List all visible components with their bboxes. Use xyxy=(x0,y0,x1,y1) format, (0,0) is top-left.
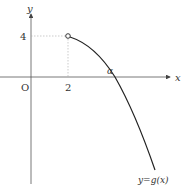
root-alpha-label: α xyxy=(107,66,113,76)
x-tick-label: 2 xyxy=(65,82,71,93)
graph: y x O 2 4 α y=g(x) xyxy=(0,0,187,186)
open-point xyxy=(66,34,71,39)
curve-g xyxy=(70,37,155,170)
x-axis-label: x xyxy=(175,72,181,83)
curve-label: y=g(x) xyxy=(137,175,169,185)
y-axis-label: y xyxy=(26,3,33,14)
origin-label: O xyxy=(21,82,29,93)
y-tick-label: 4 xyxy=(20,31,26,42)
